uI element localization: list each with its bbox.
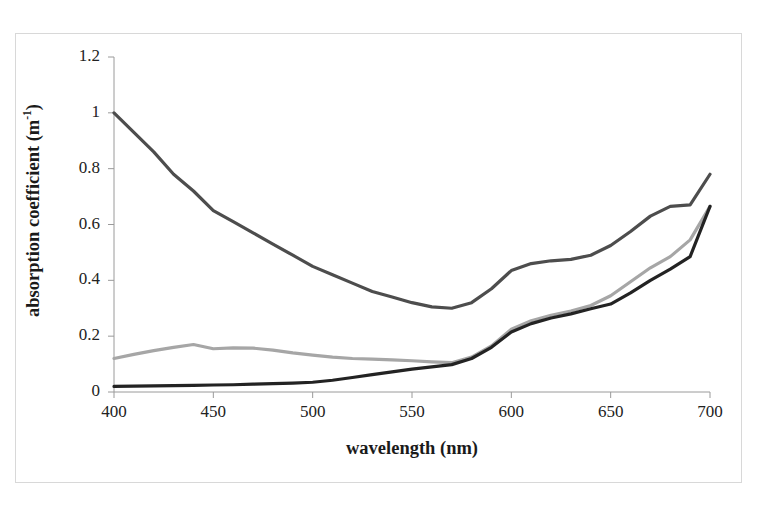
- y-axis-title-text: absorption coefficient (m: [23, 120, 43, 317]
- y-axis-title: absorption coefficient (m-1): [23, 61, 44, 361]
- y-tick-label: 0.6: [48, 214, 100, 234]
- y-tick-label: 1.2: [48, 46, 100, 66]
- x-tick-label: 650: [581, 402, 641, 422]
- figure-canvas: 00.20.40.60.811.2 400450500550600650700 …: [0, 0, 765, 506]
- axis-lines: [114, 57, 710, 392]
- x-tick-label: 700: [680, 402, 740, 422]
- chart-plot-area: [0, 0, 765, 506]
- y-tick-label: 1: [48, 102, 100, 122]
- data-series-group: [114, 113, 710, 387]
- x-tick-label: 450: [183, 402, 243, 422]
- y-axis-title-exponent: -1: [21, 110, 33, 120]
- x-tick-label: 550: [382, 402, 442, 422]
- series-line-dark-gray-curve: [114, 113, 710, 308]
- y-tick-label: 0: [48, 381, 100, 401]
- x-axis-title: wavelength (nm): [114, 438, 710, 459]
- y-axis-title-paren: ): [23, 104, 43, 110]
- y-tick-label: 0.2: [48, 325, 100, 345]
- y-tick-label: 0.8: [48, 158, 100, 178]
- x-tick-label: 500: [283, 402, 343, 422]
- x-tick-label: 600: [481, 402, 541, 422]
- y-tick-label: 0.4: [48, 269, 100, 289]
- series-line-light-gray-curve: [114, 206, 710, 362]
- x-tick-label: 400: [84, 402, 144, 422]
